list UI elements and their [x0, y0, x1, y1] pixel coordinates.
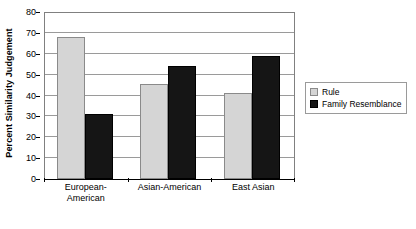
y-axis-tick-mark [36, 54, 40, 55]
x-axis-tick-mark [211, 178, 212, 182]
bar-fam [168, 66, 196, 179]
y-axis-title: Percent Similarity Judgement [0, 0, 18, 185]
bar-fam [85, 114, 113, 179]
y-axis-tick-mark [36, 158, 40, 159]
x-axis-category-label-line: American [44, 193, 128, 204]
y-axis-tick-label: 20 [26, 133, 36, 142]
x-axis-category-label-line: Asian-American [128, 182, 212, 193]
x-axis-tick-mark [128, 178, 129, 182]
x-axis-category-label: East Asian [211, 182, 295, 193]
y-axis-tick-mark [36, 96, 40, 97]
y-axis-tick-label: 40 [26, 91, 36, 100]
legend-label-rule: Rule [322, 88, 339, 97]
bar-group [212, 13, 296, 179]
bar-group [129, 13, 213, 179]
bar-fam [252, 56, 280, 179]
bar-chart-figure: Percent Similarity Judgement 80706050403… [0, 0, 416, 229]
y-axis-tick-mark [36, 116, 40, 117]
y-axis-tick-label: 70 [26, 28, 36, 37]
legend-swatch-rule-icon [310, 88, 318, 96]
y-axis-tick-mark [36, 33, 40, 34]
y-axis-title-text: Percent Similarity Judgement [4, 28, 14, 157]
x-axis-tick-mark [294, 178, 295, 182]
x-axis-category-label-line: East Asian [211, 182, 295, 193]
legend-item-family-resemblance: Family Resemblance [310, 98, 401, 110]
y-axis-ticks: 80706050403020100 [18, 12, 40, 180]
y-axis-tick-mark [36, 179, 40, 180]
x-axis-category-labels: European-AmericanAsian-AmericanEast Asia… [44, 182, 295, 228]
bar-rule [57, 37, 85, 179]
legend-item-rule: Rule [310, 86, 401, 98]
bar-rule [140, 84, 168, 179]
plot-area [44, 12, 295, 180]
legend-swatch-family-resemblance-icon [310, 100, 318, 108]
y-axis-tick-label: 10 [26, 154, 36, 163]
chart-legend: Rule Family Resemblance [305, 82, 407, 114]
y-axis-tick-label: 30 [26, 112, 36, 121]
y-axis-tick-mark [36, 75, 40, 76]
x-axis-tick-mark [44, 178, 45, 182]
x-axis-category-label: Asian-American [128, 182, 212, 193]
y-axis-tick-label: 60 [26, 49, 36, 58]
bar-rule [224, 93, 252, 179]
bar-series-container [45, 13, 294, 179]
y-axis-tick-mark [36, 12, 40, 13]
bar-group [45, 13, 129, 179]
legend-label-family-resemblance: Family Resemblance [322, 100, 401, 109]
x-axis-category-label: European-American [44, 182, 128, 204]
y-axis-tick-label: 80 [26, 8, 36, 17]
y-axis-tick-mark [36, 137, 40, 138]
y-axis-tick-label: 50 [26, 70, 36, 79]
x-axis-category-label-line: European- [44, 182, 128, 193]
